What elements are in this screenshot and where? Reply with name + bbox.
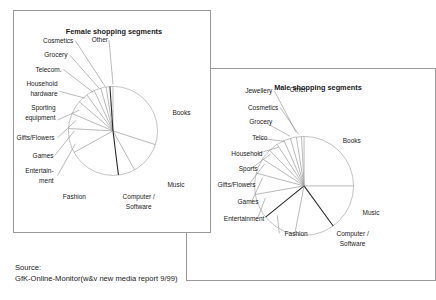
female-label-gifts-flowers: Gifts/Flowers	[17, 134, 56, 141]
male-chart-panel: Male shopping segments	[186, 68, 436, 281]
male-label-other: Other	[290, 86, 307, 93]
male-label-computer-software: Computer /	[336, 230, 368, 238]
male-label-sports: Sports	[239, 165, 259, 173]
male-label-games: Games	[237, 198, 259, 205]
male-label-music: Music	[363, 209, 381, 216]
female-label-household: Household	[26, 80, 58, 87]
source-note: Source: GfK-Online-Monitor(w&v new media…	[15, 262, 177, 284]
male-label-grocery: Grocery	[249, 118, 273, 126]
female-chart-panel: Female shopping segments	[13, 10, 211, 233]
female-label-sporting: Sporting	[31, 104, 56, 112]
female-label-grocery: Grocery	[44, 51, 68, 59]
female-label-cosmetics: Cosmetics	[43, 37, 74, 44]
female-label-sporting-2: equipment	[25, 114, 56, 122]
male-label-telco: Telco	[252, 134, 268, 141]
male-label-entertainment: Entertainment	[224, 215, 265, 222]
female-label-computer-software: Computer /	[123, 193, 155, 201]
female-label-household-2: hardware	[30, 90, 58, 97]
male-label-books: Books	[343, 137, 362, 144]
female-chart-title: Female shopping segments	[66, 27, 162, 36]
male-label-cosmetics: Cosmetics	[248, 104, 279, 111]
male-leader-lines	[249, 91, 299, 234]
source-citation: GfK-Online-Monitor(w&v new media report …	[15, 273, 177, 284]
male-label-computer-software-2: Software	[340, 240, 366, 247]
female-label-entertainment-2: ment	[39, 177, 54, 184]
male-label-fashion: Fashion	[285, 230, 309, 237]
female-label-telecom: Telecom.	[35, 66, 61, 73]
female-label-entertainment: Entertain-	[25, 167, 53, 174]
male-pie-chart: Male shopping segments	[187, 69, 435, 280]
screenshot-canvas: Male shopping segments	[0, 0, 436, 300]
female-label-computer-software-2: Software	[126, 203, 152, 210]
male-label-household: Household	[231, 150, 263, 157]
female-pie-chart: Female shopping segments	[14, 11, 210, 232]
female-label-books: Books	[172, 109, 191, 116]
male-label-gifts-flowers: Gifts/Flowers	[218, 181, 257, 188]
female-label-other: Other	[92, 36, 109, 43]
female-leader-lines	[55, 40, 113, 176]
female-label-games: Games	[33, 152, 55, 159]
male-chart-title: Male shopping segments	[274, 83, 362, 92]
male-label-jewellery: Jewellery	[245, 87, 273, 95]
female-label-fashion: Fashion	[63, 193, 87, 200]
source-label: Source:	[15, 262, 177, 273]
female-label-music: Music	[167, 181, 185, 188]
